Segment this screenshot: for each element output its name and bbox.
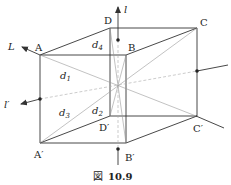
axis-l-bottom-point — [116, 147, 120, 151]
label-C: C — [200, 17, 208, 28]
label-A: A — [34, 42, 43, 53]
label-axis-L: L — [7, 41, 15, 52]
diagonal-d3 — [40, 28, 197, 143]
label-B-prime: B′ — [125, 152, 135, 163]
label-A-prime: A′ — [33, 149, 44, 160]
axis-l-top-point — [116, 38, 120, 42]
label-axis-l-prime: l′ — [4, 99, 10, 110]
label-B: B — [128, 42, 135, 53]
axis-l-prime-left — [21, 99, 40, 104]
hidden-lines — [40, 40, 197, 149]
cube-rotation-diagram: A B C D A′ B′ C′ D′ l L l′ d1 d2 d3 d4 図… — [0, 0, 231, 185]
axis-l-prime-right-point — [195, 69, 199, 73]
label-d4: d4 — [92, 39, 103, 52]
label-D-prime: D′ — [99, 122, 110, 133]
label-D: D — [104, 15, 112, 26]
label-C-prime: C′ — [193, 123, 204, 134]
body-diagonals — [40, 28, 197, 143]
axis-l-prime-right — [197, 65, 228, 71]
label-d1: d1 — [60, 70, 71, 83]
axis-l-prime-left-point — [38, 97, 42, 101]
caption-prefix: 図 — [93, 171, 103, 182]
label-d3: d3 — [59, 107, 70, 120]
caption-number: 10.9 — [108, 171, 132, 182]
label-axis-l: l — [124, 4, 127, 15]
label-d2: d2 — [92, 105, 103, 118]
edge-BC — [126, 28, 197, 55]
edge-B'C' — [126, 116, 197, 143]
